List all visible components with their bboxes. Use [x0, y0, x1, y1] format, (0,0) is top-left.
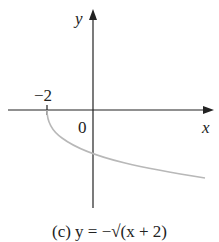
- graph: y x −2 0: [0, 0, 219, 242]
- y-axis-label: y: [73, 9, 83, 28]
- caption: (c) y = −√(x + 2): [0, 222, 219, 242]
- y-axis-arrow-icon: [89, 9, 97, 20]
- x-axis-label: x: [201, 118, 210, 137]
- tick-label-neg2: −2: [34, 86, 52, 105]
- x-axis-arrow-icon: [203, 106, 214, 114]
- origin-label: 0: [78, 118, 87, 137]
- curve: [47, 110, 205, 178]
